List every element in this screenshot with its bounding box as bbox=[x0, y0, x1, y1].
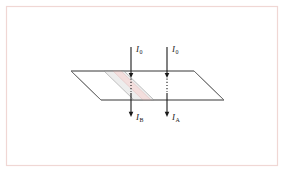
beam-a-emergent-label: IA bbox=[171, 112, 180, 123]
beam-b-emergent-arrowhead bbox=[129, 112, 134, 117]
physics-diagram: I0IBI0IA bbox=[0, 0, 283, 171]
beam-a-emergent-label-subscript: A bbox=[175, 117, 180, 123]
beam-b-emergent-label: IB bbox=[135, 112, 143, 123]
beam-a-incident-label-subscript: 0 bbox=[175, 49, 178, 55]
beam-b-emergent-label-subscript: B bbox=[139, 117, 143, 123]
beam-a-emergent-arrowhead bbox=[165, 112, 170, 117]
beam-a-incident-label: I0 bbox=[171, 44, 178, 55]
beam-b-incident-label-subscript: 0 bbox=[139, 49, 142, 55]
beam-b-incident-label: I0 bbox=[135, 44, 142, 55]
figure-root: I0IBI0IA bbox=[0, 0, 283, 171]
